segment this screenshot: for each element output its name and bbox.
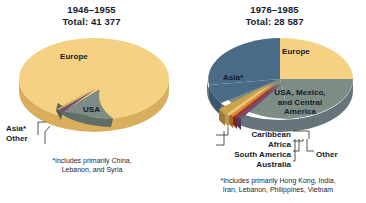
chart-title-left: 1946–1955 Total: 41 377 [0, 4, 183, 27]
footnote-right-line2: Iran, Lebanon, Philippines, Vietnam [203, 185, 353, 194]
footnote-right: *Includes primarily Hong Kong, India, Ir… [203, 176, 353, 194]
chart-title-right-period: 1976–1985 [183, 4, 366, 16]
callout-leader-lines-right [183, 125, 366, 175]
pie-label-usa-right-line1: USA, Mexico, [256, 88, 344, 98]
pie-callout-asia-left: Asia* [6, 124, 26, 134]
chart-title-right-total: Total: 28 587 [183, 16, 366, 28]
chart-title-left-period: 1946–1955 [0, 4, 183, 16]
footnote-right-line1: *Includes primarily Hong Kong, India, [203, 176, 353, 185]
footnote-left-line1: *Includes primarily China, [22, 156, 162, 165]
pie-label-usa-right: USA, Mexico, and Central America [256, 88, 344, 117]
leader-australia [293, 139, 295, 161]
footnote-left-line2: Lebanon, and Syria [22, 165, 162, 174]
pie-label-usa-right-line3: America [256, 107, 344, 117]
pie-label-europe-right: Europe [282, 47, 310, 57]
pie-right-slice-europe [280, 38, 353, 79]
chart-title-left-total: Total: 41 377 [0, 16, 183, 28]
leader-line-other-left [45, 126, 50, 144]
leader-caribbean [293, 131, 309, 139]
pie-label-europe-left: Europe [60, 52, 88, 62]
pie-right-slice-asia [208, 38, 280, 85]
chart-title-right: 1976–1985 Total: 28 587 [183, 4, 366, 27]
pie-label-usa-right-line2: and Central [256, 98, 344, 108]
leader-africa [293, 139, 303, 141]
chart-panel-1976-1985: 1976–1985 Total: 28 587 [183, 0, 366, 203]
pie-label-usa-left: USA [83, 105, 100, 115]
chart-panel-1946-1955: 1946–1955 Total: 41 377 Europe USA Asia* [0, 0, 183, 203]
leader-other [307, 139, 314, 151]
pie-callout-other-left: Other [6, 134, 28, 144]
pie-chart-left [14, 27, 174, 145]
pie-label-asia-right: Asia* [223, 73, 243, 83]
footnote-left: *Includes primarily China, Lebanon, and … [22, 156, 162, 174]
